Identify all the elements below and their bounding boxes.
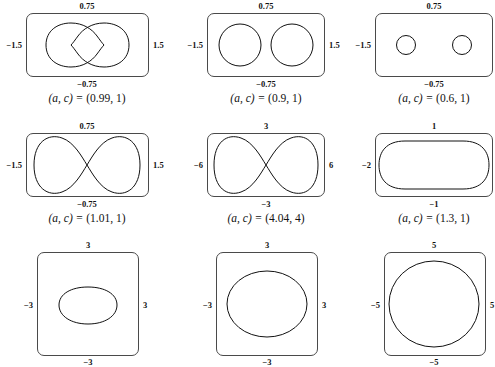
axis-label-left-9: −5 — [371, 301, 380, 310]
cassini-oval-figure: 0.75 −0.75 −1.5 1.5 (a, c) = (0.99, 1) 0… — [0, 0, 495, 367]
axis-label-bottom-9: −5 — [429, 358, 438, 367]
plot-curve-9 — [0, 0, 495, 367]
axis-label-top-9: 5 — [432, 241, 436, 250]
axis-label-right-9: 5 — [490, 301, 494, 310]
